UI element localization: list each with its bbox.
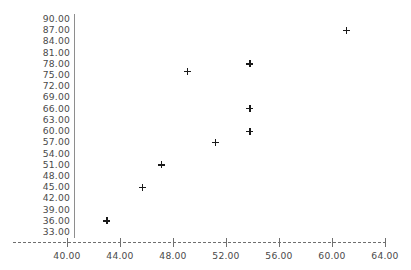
data-point bbox=[103, 217, 110, 224]
x-axis-tick-mark bbox=[226, 238, 227, 247]
x-axis-tick-label: 60.00 bbox=[318, 250, 345, 262]
x-axis-tick-label: 56.00 bbox=[265, 250, 292, 262]
x-axis-tick-mark bbox=[332, 238, 333, 247]
x-axis-tick-mark bbox=[120, 238, 121, 247]
data-point bbox=[184, 68, 191, 75]
x-axis-tick-label: 52.00 bbox=[212, 250, 239, 262]
x-axis-tick-label: 48.00 bbox=[159, 250, 186, 262]
data-point bbox=[158, 161, 165, 168]
x-axis-tick-mark bbox=[67, 238, 68, 247]
data-point bbox=[343, 27, 350, 34]
data-point bbox=[212, 139, 219, 146]
scatter-plot-figure: 33.0036.0039.0042.0045.0048.0051.0054.00… bbox=[0, 0, 411, 270]
plot-data-area bbox=[0, 0, 411, 270]
x-axis-tick-label: 44.00 bbox=[106, 250, 133, 262]
x-axis-tick-labels: 40.0044.0048.0052.0056.0060.0064.00 bbox=[0, 250, 411, 266]
x-axis-tick-label: 64.00 bbox=[371, 250, 398, 262]
x-axis-tick-label: 40.00 bbox=[53, 250, 80, 262]
x-axis-tick-mark bbox=[385, 238, 386, 247]
data-point bbox=[139, 184, 146, 191]
x-axis-tick-mark bbox=[173, 238, 174, 247]
data-point bbox=[246, 105, 253, 112]
data-point bbox=[246, 128, 253, 135]
data-point bbox=[246, 60, 253, 67]
x-axis-tick-mark bbox=[279, 238, 280, 247]
x-axis-tick-marks bbox=[0, 238, 411, 247]
